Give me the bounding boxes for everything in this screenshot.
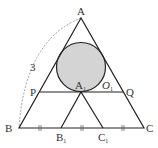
triangle-a1b1c1 bbox=[61, 92, 103, 128]
label-a: A bbox=[77, 5, 85, 17]
label-c: C bbox=[146, 122, 153, 134]
label-b: B bbox=[5, 122, 12, 134]
label-c1: C1 bbox=[98, 131, 108, 144]
label-side-3: 3 bbox=[30, 61, 36, 73]
label-o1: O1 bbox=[102, 79, 113, 92]
label-q: Q bbox=[126, 86, 134, 98]
geometry-diagram: A B C P Q 3 A1 O1 B1 C1 bbox=[0, 0, 158, 148]
label-b1: B1 bbox=[56, 131, 66, 144]
label-p: P bbox=[30, 86, 36, 98]
